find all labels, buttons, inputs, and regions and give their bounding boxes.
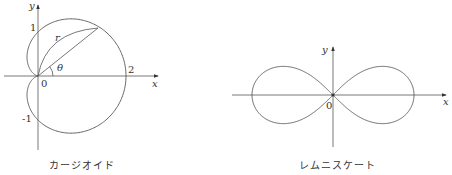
lemniscate-y-label: y (322, 45, 328, 55)
cardioid-x-label: x (152, 79, 158, 89)
cardioid-tick-1: 1 (30, 23, 36, 33)
lemniscate-origin-label: 0 (326, 101, 332, 111)
cardioid-tick-2: 2 (128, 65, 134, 75)
angle-label: θ (57, 63, 63, 73)
cardioid-y-label: y (29, 1, 35, 11)
lemniscate-caption: レムニスケート (299, 157, 376, 172)
lemniscate-origin-dot (331, 93, 334, 96)
cardioid-tick-neg1: -1 (22, 114, 32, 124)
figure-canvas (0, 0, 452, 175)
lemniscate-x-label: x (443, 97, 449, 107)
cardioid-axes (4, 5, 158, 150)
cardioid-origin-label: 0 (41, 79, 47, 89)
radius-label: r (55, 33, 60, 43)
cardioid-caption: カージオイド (49, 157, 115, 172)
angle-arc (50, 67, 53, 76)
